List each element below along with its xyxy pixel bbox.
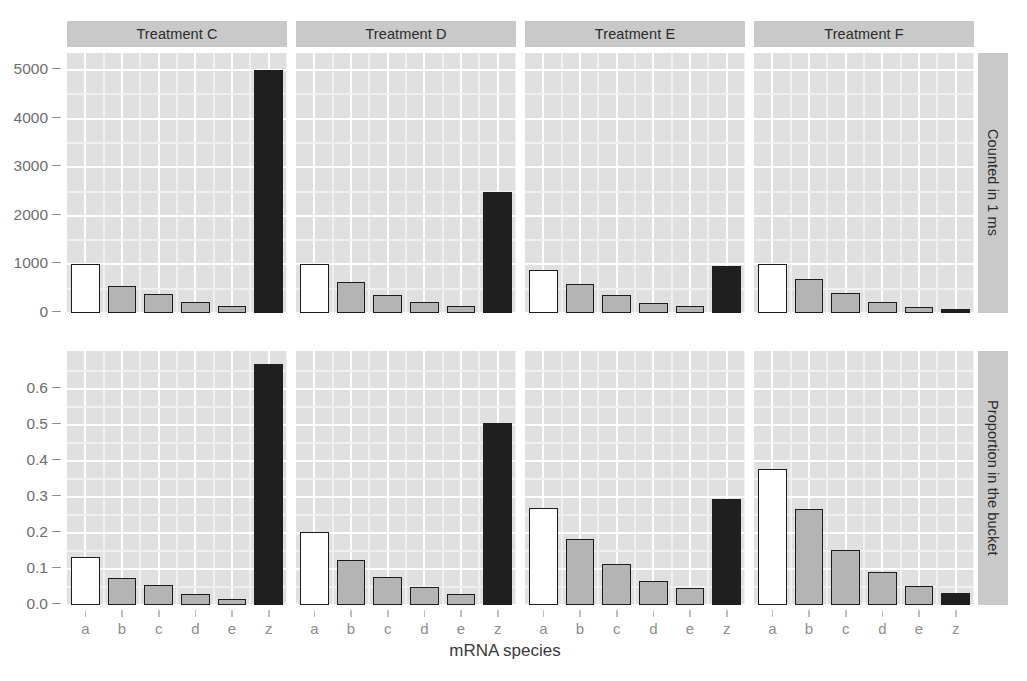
- x-axis-tick-label-a: a: [531, 620, 555, 637]
- facet-strip-row-2: Proportion in the bucket: [978, 351, 1008, 605]
- x-axis-tick-mark: [882, 610, 884, 617]
- x-axis-tick-label-a: a: [302, 620, 326, 637]
- y-axis-tick-mark: –: [52, 593, 61, 611]
- y-axis-tick-label: 0.6: [0, 379, 48, 397]
- gridline-horizontal: [754, 69, 974, 71]
- bar-b: [337, 560, 366, 605]
- y-axis-tick-mark: –: [52, 413, 61, 431]
- gridline-vertical-minor: [634, 53, 636, 313]
- gridline-vertical: [881, 53, 883, 313]
- bar-b: [337, 282, 366, 313]
- bar-c: [373, 295, 402, 314]
- bar-a: [300, 264, 329, 313]
- gridline-horizontal-minor: [754, 478, 974, 480]
- y-axis-tick-mark: –: [52, 449, 61, 467]
- gridline-horizontal: [754, 460, 974, 462]
- x-axis-tick-mark: [772, 610, 774, 617]
- gridline-vertical: [231, 53, 233, 313]
- x-axis-tick-label-e: e: [678, 620, 702, 637]
- x-axis-tick-label-e: e: [449, 620, 473, 637]
- x-axis-tick-mark: [579, 610, 581, 617]
- facet-strip-column-2-label: Treatment D: [365, 26, 446, 42]
- gridline-horizontal: [525, 496, 745, 498]
- gridline-horizontal: [525, 388, 745, 390]
- x-axis-tick-mark: [497, 610, 499, 617]
- y-axis-tick-mark: –: [52, 301, 61, 319]
- gridline-vertical: [350, 53, 352, 313]
- bar-e: [218, 599, 247, 606]
- gridline-horizontal: [525, 424, 745, 426]
- x-axis-tick-mark: [158, 610, 160, 617]
- gridline-horizontal-minor: [296, 370, 516, 372]
- facet-strip-column-4: Treatment F: [754, 21, 974, 47]
- y-axis-tick-mark: –: [52, 252, 61, 270]
- gridline-vertical-minor: [561, 53, 563, 313]
- gridline-vertical: [689, 53, 691, 313]
- facet-strip-column-2: Treatment D: [296, 21, 516, 47]
- gridline-horizontal-minor: [525, 239, 745, 241]
- bar-e: [676, 588, 705, 605]
- x-axis-tick-mark: [845, 610, 847, 617]
- x-axis-tick-mark: [460, 610, 462, 617]
- gridline-horizontal: [525, 69, 745, 71]
- gridline-vertical: [616, 53, 618, 313]
- gridline-horizontal-minor: [525, 93, 745, 95]
- bar-d: [868, 572, 897, 606]
- gridline-vertical-minor: [213, 53, 215, 313]
- gridline-vertical-minor: [249, 53, 251, 313]
- x-axis-tick-mark: [689, 610, 691, 617]
- bar-e: [905, 586, 934, 605]
- bar-z: [254, 70, 283, 313]
- gridline-vertical-minor: [973, 53, 974, 313]
- x-axis-tick-label-c: c: [605, 620, 629, 637]
- gridline-vertical: [121, 53, 123, 313]
- x-axis-tick-label-z: z: [715, 620, 739, 637]
- panel-treatment-c-row1: [67, 53, 287, 313]
- gridline-vertical-minor: [405, 53, 407, 313]
- bar-c: [144, 294, 173, 313]
- gridline-vertical: [460, 53, 462, 313]
- gridline-horizontal: [754, 424, 974, 426]
- y-axis-tick-label: 0: [0, 303, 48, 321]
- x-axis-tick-mark: [918, 610, 920, 617]
- panel-treatment-f-row2: [754, 351, 974, 605]
- x-axis-tick-label-a: a: [760, 620, 784, 637]
- gridline-vertical: [194, 53, 196, 313]
- x-axis-tick-label-z: z: [486, 620, 510, 637]
- chart-root: Treatment C Treatment D Treatment E Trea…: [0, 0, 1027, 681]
- x-axis-tick-label-d: d: [870, 620, 894, 637]
- x-axis-title: mRNA species: [0, 641, 1010, 661]
- x-axis-tick-mark: [387, 610, 389, 617]
- bar-z: [712, 499, 741, 605]
- bar-z: [483, 423, 512, 605]
- gridline-vertical: [387, 53, 389, 313]
- x-axis-tick-mark: [268, 610, 270, 617]
- panel-treatment-e-row2: [525, 351, 745, 605]
- y-axis-tick-label: 5000: [0, 60, 48, 78]
- y-axis-tick-mark: –: [52, 557, 61, 575]
- gridline-horizontal-minor: [754, 288, 974, 290]
- facet-strip-column-3-label: Treatment E: [595, 26, 675, 42]
- x-axis-tick-mark: [350, 610, 352, 617]
- gridline-horizontal: [754, 215, 974, 217]
- gridline-horizontal-minor: [754, 191, 974, 193]
- gridline-vertical-minor: [103, 53, 105, 313]
- gridline-vertical-minor: [936, 53, 938, 313]
- bar-b: [108, 286, 137, 313]
- bar-a: [71, 557, 100, 605]
- y-axis-tick-label: 1000: [0, 254, 48, 272]
- panel-treatment-d-row1: [296, 53, 516, 313]
- gridline-horizontal-minor: [754, 406, 974, 408]
- gridline-vertical-minor: [671, 53, 673, 313]
- bar-a: [758, 264, 787, 313]
- gridline-horizontal: [296, 388, 516, 390]
- gridline-vertical: [845, 53, 847, 313]
- x-axis-tick-label-z: z: [944, 620, 968, 637]
- gridline-horizontal: [754, 118, 974, 120]
- x-axis-tick-mark: [424, 610, 426, 617]
- bar-b: [566, 539, 595, 605]
- x-axis-tick-mark: [314, 610, 316, 617]
- x-axis-tick-label-d: d: [412, 620, 436, 637]
- y-axis-tick-mark: –: [52, 204, 61, 222]
- gridline-horizontal: [754, 263, 974, 265]
